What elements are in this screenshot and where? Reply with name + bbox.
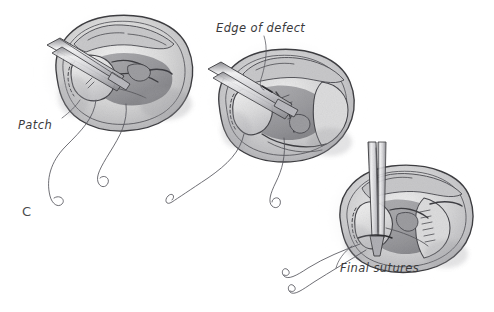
panel-letter: C [22,204,31,219]
figure-root: Patch [0,0,494,312]
label-edge-of-defect: Edge of defect [216,21,305,35]
label-final-sutures: Final sutures [340,261,419,275]
label-patch: Patch [18,118,52,132]
surgical-illustration-canvas: Patch [0,0,494,312]
panel-right: Final sutures [282,142,478,293]
panel-left: Patch [18,6,204,206]
